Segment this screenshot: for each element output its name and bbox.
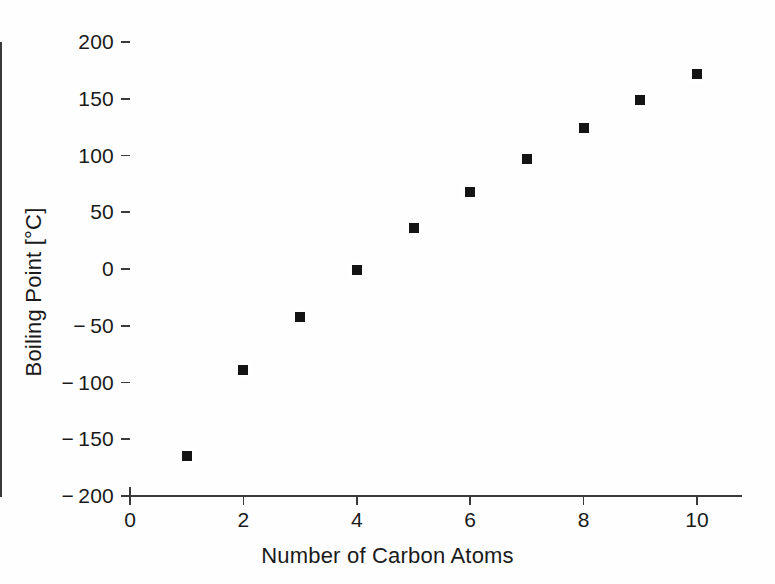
data-point-marker [295, 312, 305, 322]
data-point-marker [182, 451, 192, 461]
scatter-chart-figure: 200150100500− 50− 100− 150− 200 0246810 … [0, 0, 775, 584]
y-axis-tick-label: 0 [102, 257, 114, 281]
x-axis-title: Number of Carbon Atoms [0, 543, 775, 569]
y-axis-tick-label: 50 [90, 200, 114, 224]
y-axis-tick [121, 382, 130, 384]
y-axis-tick [121, 325, 130, 327]
y-axis-tick-label: − 150 [61, 427, 114, 451]
data-point-marker [465, 187, 475, 197]
data-point-marker [352, 265, 362, 275]
x-axis-tick-label: 4 [351, 508, 363, 532]
plot-area [130, 42, 742, 496]
data-point-marker [409, 223, 419, 233]
y-axis-tick-label: − 100 [61, 371, 114, 395]
x-axis-tick-label: 10 [685, 508, 708, 532]
y-axis-title: Boiling Point [°C] [14, 0, 54, 584]
y-axis-tick [121, 155, 130, 157]
y-axis-tick [121, 98, 130, 100]
data-point-marker [522, 154, 532, 164]
y-axis-line [0, 42, 2, 497]
x-axis-tick-label: 0 [124, 508, 136, 532]
y-axis-tick [121, 41, 130, 43]
y-axis-tick-label: 150 [78, 87, 114, 111]
data-point-marker [635, 95, 645, 105]
y-axis-tick-label: 200 [78, 30, 114, 54]
y-axis-tick [121, 211, 130, 213]
y-axis-tick-label: − 50 [73, 314, 114, 338]
data-point-marker [692, 69, 702, 79]
x-axis-tick-label: 2 [238, 508, 250, 532]
data-point-marker [579, 123, 589, 133]
x-axis-tick-label: 8 [578, 508, 590, 532]
data-point-marker [238, 365, 248, 375]
y-axis-tick [121, 438, 130, 440]
x-axis-tick-label: 6 [464, 508, 476, 532]
y-axis-tick-label: 100 [78, 144, 114, 168]
y-axis-tick [121, 268, 130, 270]
